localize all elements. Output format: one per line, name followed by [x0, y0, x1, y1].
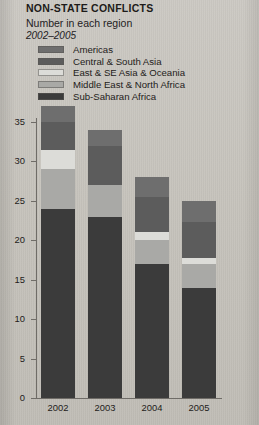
bar-stack — [88, 122, 122, 398]
y-axis-tick-label: 5 — [3, 354, 25, 363]
bar-chart-plot: 051015202530352002200320042005 — [0, 0, 259, 425]
y-axis-tick — [31, 398, 36, 399]
bar-stack — [41, 122, 75, 398]
bar-segment — [41, 106, 75, 122]
bar-segment — [182, 201, 216, 222]
bar-segment — [41, 122, 75, 150]
y-axis-tick — [31, 359, 36, 360]
y-axis-tick — [31, 280, 36, 281]
y-axis-tick-label: 0 — [3, 393, 25, 402]
bar-segment — [135, 240, 169, 264]
y-axis-tick — [31, 161, 36, 162]
bar-segment — [182, 258, 216, 264]
bar-segment — [182, 264, 216, 288]
bar-segment — [135, 177, 169, 197]
bar-segment — [135, 197, 169, 232]
bar-segment — [182, 222, 216, 257]
y-axis-tick-label: 15 — [3, 275, 25, 284]
y-axis-tick-label: 10 — [3, 314, 25, 323]
bar-stack — [182, 122, 216, 398]
bar-segment — [41, 209, 75, 398]
y-axis-tick-label: 35 — [3, 117, 25, 126]
y-axis-tick — [31, 201, 36, 202]
bar-stack — [135, 122, 169, 398]
y-axis-tick — [31, 240, 36, 241]
y-axis-tick — [31, 122, 36, 123]
y-axis-tick-label: 25 — [3, 196, 25, 205]
x-axis-tick-label: 2005 — [171, 403, 227, 413]
bar-segment — [41, 150, 75, 170]
bar-segment — [135, 264, 169, 398]
y-axis-line — [36, 118, 37, 399]
bar-segment — [41, 169, 75, 208]
y-axis-tick-label: 30 — [3, 156, 25, 165]
bar-segment — [135, 232, 169, 240]
y-axis-tick-label: 20 — [3, 235, 25, 244]
y-axis-tick — [31, 319, 36, 320]
x-axis-line — [36, 398, 222, 399]
bar-segment — [88, 185, 122, 217]
bar-segment — [88, 217, 122, 398]
bar-segment — [88, 146, 122, 185]
bar-segment — [182, 288, 216, 398]
bar-segment — [88, 130, 122, 146]
